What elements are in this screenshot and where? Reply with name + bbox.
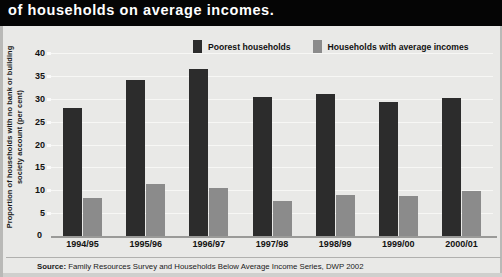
bar-group: [63, 53, 102, 236]
x-axis-labels: 1994/951995/961996/971997/981998/991999/…: [51, 239, 493, 255]
bar-poorest: [126, 80, 145, 236]
chart-panel: Poorest households Households with avera…: [0, 26, 502, 277]
source-note: Source: Family Resources Survey and Hous…: [37, 262, 363, 271]
page-title: of households on average incomes.: [8, 2, 274, 18]
bar-average: [83, 198, 102, 236]
bar-poorest: [63, 108, 82, 236]
bar-group: [316, 53, 355, 236]
bar-poorest: [189, 69, 208, 236]
y-axis-title: Proportion of households with no bank or…: [5, 44, 29, 230]
x-axis-label: 1994/95: [66, 239, 99, 249]
x-axis-label: 1995/96: [129, 239, 162, 249]
bar-average: [146, 184, 165, 236]
bar-average: [462, 191, 481, 236]
source-prefix: Source:: [37, 262, 66, 271]
legend-item-poorest: Poorest households: [193, 40, 291, 54]
bar-group: [379, 53, 418, 236]
legend-label-poorest: Poorest households: [208, 42, 291, 52]
x-axis-label: 1997/98: [256, 239, 289, 249]
legend-item-average: Households with average incomes: [313, 40, 469, 54]
headline-band: of households on average incomes.: [0, 0, 502, 26]
legend-swatch-dark-icon: [193, 40, 202, 54]
bar-group: [126, 53, 165, 236]
bar-poorest: [379, 102, 398, 236]
bar-poorest: [442, 98, 461, 236]
chart-screenshot: of households on average incomes. Poores…: [0, 0, 502, 277]
bar-poorest: [253, 97, 272, 236]
y-tick-label: 15: [35, 162, 45, 172]
y-tick-label: 10: [35, 185, 45, 195]
bar-group: [442, 53, 481, 236]
y-tick-label: 20: [35, 140, 45, 150]
x-axis-label: 1996/97: [193, 239, 226, 249]
x-axis-label: 2000/01: [445, 239, 478, 249]
chart-legend: Poorest households Households with avera…: [193, 40, 491, 54]
x-axis-label: 1999/00: [382, 239, 415, 249]
bar-average: [336, 195, 355, 236]
x-axis-label: 1998/99: [319, 239, 352, 249]
x-axis-line: [51, 236, 497, 238]
panel-bottom-edge: [3, 273, 502, 277]
bar-poorest: [316, 94, 335, 236]
y-tick-label: 35: [35, 71, 45, 81]
source-text: Family Resources Survey and Households B…: [68, 262, 363, 271]
bar-group: [253, 53, 292, 236]
y-tick-zero: 0: [37, 230, 42, 240]
bar-average: [209, 188, 228, 236]
y-tick-label: 5: [40, 208, 45, 218]
legend-label-average: Households with average incomes: [328, 42, 469, 52]
y-tick-label: 25: [35, 117, 45, 127]
bar-average: [273, 201, 292, 236]
plot-area: 510152025303540: [51, 53, 493, 236]
bar-groups: [51, 53, 493, 236]
bar-group: [189, 53, 228, 236]
legend-swatch-light-icon: [313, 40, 322, 54]
y-tick-label: 40: [35, 48, 45, 58]
bar-average: [399, 196, 418, 236]
y-tick-label: 30: [35, 94, 45, 104]
source-divider: [6, 257, 501, 258]
